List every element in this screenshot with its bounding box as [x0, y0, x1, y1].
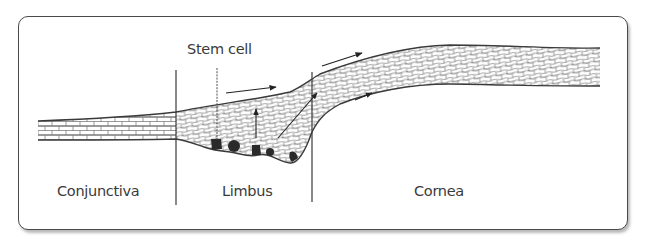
arrow-surface-limbus [226, 87, 276, 93]
limbus-label: Limbus [222, 183, 272, 199]
conjunctiva-label: Conjunctiva [57, 183, 139, 199]
conjunctiva-epithelium [38, 112, 176, 140]
epithelium-diagram [0, 0, 646, 247]
cornea-epithelium [312, 45, 600, 132]
stem-cell-label: Stem cell [187, 41, 252, 57]
cornea-label: Cornea [414, 183, 464, 199]
